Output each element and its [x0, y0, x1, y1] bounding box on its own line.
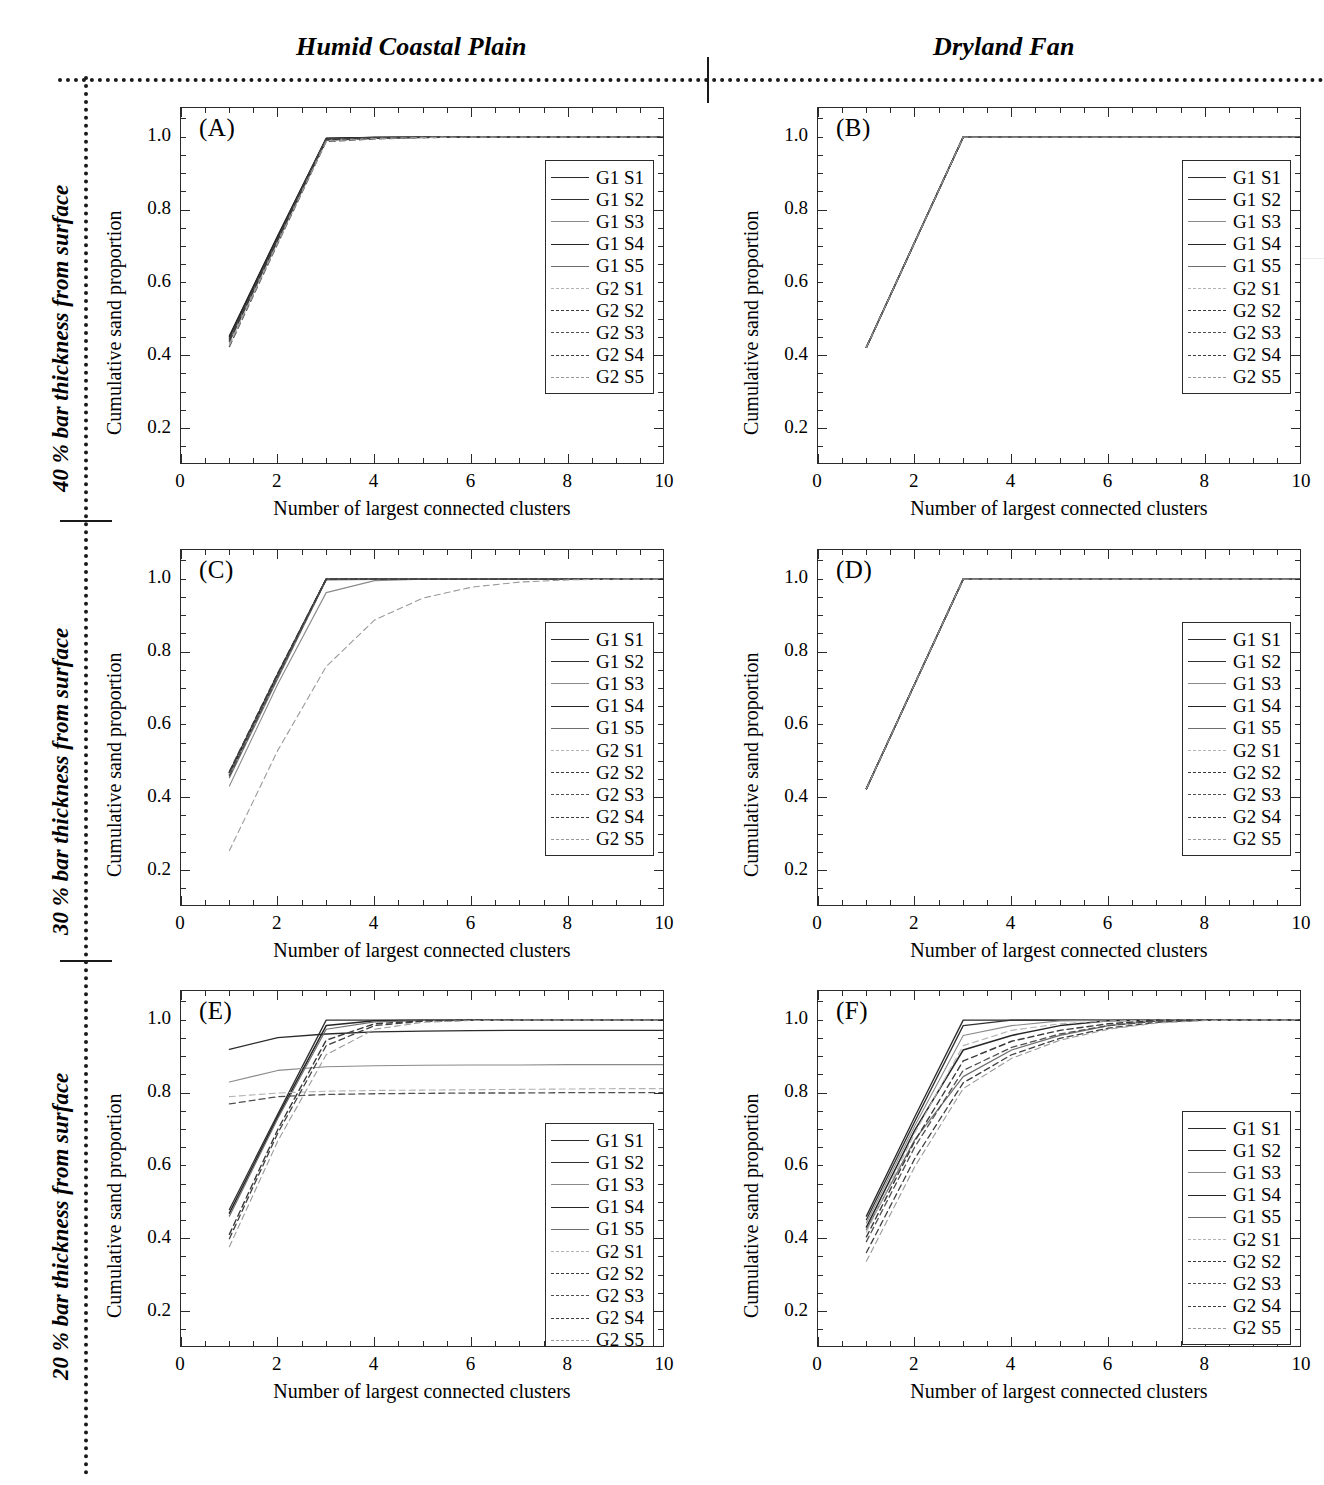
legend-item-G1-S1: G1 S1	[1188, 1117, 1281, 1139]
x-tick-major	[277, 550, 278, 559]
x-tick-label: 6	[1092, 912, 1122, 934]
x-tick-minor	[842, 108, 843, 113]
y-tick-label: 1.0	[123, 124, 171, 146]
x-tick-minor	[963, 550, 964, 555]
y-tick-minor	[818, 155, 823, 156]
panel-C: G1 S1G1 S2G1 S3G1 S4G1 S5G2 S1G2 S2G2 S3…	[65, 537, 685, 957]
y-axis-label: Cumulative sand proportion	[103, 653, 126, 877]
x-tick-label: 6	[455, 1353, 485, 1375]
legend-item-G2-S5: G2 S5	[551, 828, 644, 850]
y-tick-minor	[818, 264, 823, 265]
y-tick-minor	[818, 1184, 823, 1185]
y-tick-minor	[1295, 1129, 1300, 1130]
legend-swatch-dashed-icon	[1188, 834, 1226, 844]
y-tick-minor	[658, 1111, 663, 1112]
y-tick-minor	[181, 301, 186, 302]
x-tick-minor	[1084, 1341, 1085, 1346]
x-tick-minor	[890, 458, 891, 463]
legend-label: G2 S4	[596, 345, 644, 364]
y-tick-minor	[1295, 191, 1300, 192]
y-tick-minor	[1295, 779, 1300, 780]
y-tick-minor	[658, 761, 663, 762]
legend-swatch-dashed-icon	[1188, 305, 1226, 315]
y-tick-label: 1.0	[760, 124, 808, 146]
x-tick-minor	[1229, 900, 1230, 905]
y-tick-major	[181, 797, 190, 798]
legend-label: G2 S5	[1233, 829, 1281, 848]
x-tick-minor	[447, 108, 448, 113]
legend-item-G1-S4: G1 S4	[551, 1196, 644, 1218]
y-tick-minor	[1295, 1147, 1300, 1148]
x-tick-major	[374, 454, 375, 463]
x-tick-minor	[866, 458, 867, 463]
legend-swatch-solid-icon	[1188, 194, 1226, 204]
y-tick-minor	[1295, 743, 1300, 744]
y-tick-label: 0.4	[760, 1226, 808, 1248]
y-tick-minor	[658, 301, 663, 302]
x-tick-minor	[302, 458, 303, 463]
legend-label: G1 S5	[596, 256, 644, 275]
x-tick-minor	[1277, 550, 1278, 555]
x-tick-minor	[592, 900, 593, 905]
x-tick-major	[1011, 896, 1012, 905]
y-tick-minor	[1295, 137, 1300, 138]
y-tick-minor	[181, 1129, 186, 1130]
x-tick-minor	[1277, 991, 1278, 996]
y-tick-label: 0.6	[760, 270, 808, 292]
y-tick-minor	[1295, 815, 1300, 816]
legend-swatch-solid-icon	[551, 1157, 589, 1167]
y-tick-minor	[181, 724, 186, 725]
x-tick-minor	[495, 1341, 496, 1346]
y-tick-minor	[181, 597, 186, 598]
y-tick-minor	[1295, 446, 1300, 447]
x-tick-minor	[326, 1341, 327, 1346]
legend-swatch-dashed-icon	[1188, 1234, 1226, 1244]
x-tick-minor	[423, 108, 424, 113]
x-tick-minor	[398, 458, 399, 463]
x-tick-major	[374, 896, 375, 905]
x-tick-minor	[616, 900, 617, 905]
x-tick-minor	[1181, 108, 1182, 113]
legend-swatch-dashed-icon	[1188, 1278, 1226, 1288]
y-tick-minor	[1295, 579, 1300, 580]
x-tick-minor	[890, 550, 891, 555]
legend-item-G1-S4: G1 S4	[551, 695, 644, 717]
legend-label: G2 S3	[1233, 1274, 1281, 1293]
y-tick-minor	[181, 1184, 186, 1185]
x-tick-minor	[1060, 550, 1061, 555]
x-tick-major	[818, 108, 819, 117]
plot-area-B: G1 S1G1 S2G1 S3G1 S4G1 S5G2 S1G2 S2G2 S3…	[817, 107, 1301, 464]
x-tick-minor	[866, 550, 867, 555]
legend-item-G2-S3: G2 S3	[551, 1284, 644, 1306]
legend-label: G1 S4	[596, 1197, 644, 1216]
y-tick-minor	[181, 560, 186, 561]
legend-item-G1-S2: G1 S2	[551, 650, 644, 672]
x-tick-minor	[842, 1341, 843, 1346]
legend-label: G2 S1	[596, 1242, 644, 1261]
legend-swatch-solid-icon	[551, 239, 589, 249]
legend-swatch-solid-icon	[551, 678, 589, 688]
y-tick-minor	[658, 282, 663, 283]
y-tick-major	[181, 355, 190, 356]
y-tick-minor	[181, 1056, 186, 1057]
legend-A: G1 S1G1 S2G1 S3G1 S4G1 S5G2 S1G2 S2G2 S3…	[545, 160, 654, 394]
legend-item-G2-S1: G2 S1	[1188, 277, 1281, 299]
x-tick-label: 8	[1189, 1353, 1219, 1375]
y-tick-major	[818, 355, 827, 356]
y-tick-minor	[181, 852, 186, 853]
y-tick-minor	[658, 1074, 663, 1075]
x-tick-minor	[398, 550, 399, 555]
x-tick-label: 6	[1092, 470, 1122, 492]
y-tick-label: 0.4	[123, 1226, 171, 1248]
legend-swatch-dashed-icon	[551, 789, 589, 799]
x-tick-minor	[842, 458, 843, 463]
legend-label: G2 S3	[596, 323, 644, 342]
legend-label: G1 S1	[1233, 168, 1281, 187]
x-tick-minor	[350, 900, 351, 905]
x-tick-minor	[1132, 108, 1133, 113]
x-tick-minor	[1229, 108, 1230, 113]
y-tick-minor	[181, 282, 186, 283]
y-tick-minor	[818, 173, 823, 174]
legend-label: G2 S2	[1233, 301, 1281, 320]
x-tick-minor	[205, 900, 206, 905]
